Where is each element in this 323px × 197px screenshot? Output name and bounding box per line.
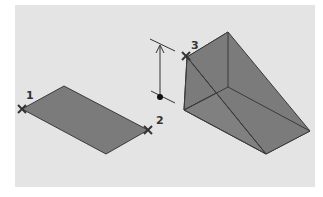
base-dot [157,94,163,100]
point-3-label: 3 [191,39,199,52]
point-2-label: 2 [156,114,164,127]
height-dimension [150,39,175,103]
base-rectangle [22,86,148,154]
diagram-svg: 1 2 3 [0,0,323,197]
point-1-label: 1 [26,89,34,102]
wedge-solid [184,32,310,154]
